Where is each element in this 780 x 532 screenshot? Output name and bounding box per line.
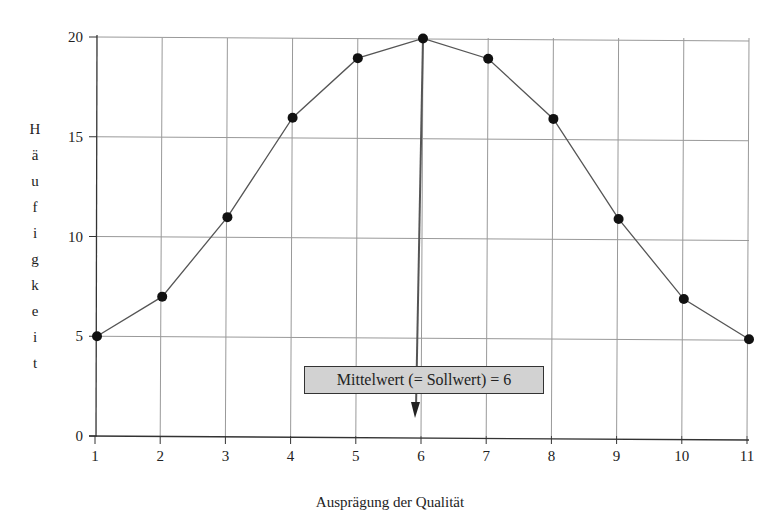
v-gridline <box>747 38 749 436</box>
data-point <box>744 334 754 344</box>
v-gridline <box>617 38 619 436</box>
data-point <box>483 54 493 64</box>
x-tick-label: 9 <box>613 448 621 464</box>
y-label-letter: ä <box>28 142 42 168</box>
x-axis-label: Ausprägung der Qualität <box>0 494 780 511</box>
y-axis <box>96 35 97 436</box>
x-axis <box>89 436 749 440</box>
x-tick-label: 6 <box>417 448 425 464</box>
data-point <box>353 53 363 63</box>
h-gridline <box>97 336 749 340</box>
x-tick-label: 1 <box>91 448 99 464</box>
x-tick-label: 8 <box>548 448 556 464</box>
tick-labels: 051015201234567891011 <box>68 29 754 464</box>
data-point <box>222 212 232 222</box>
x-tick-label: 10 <box>674 448 689 464</box>
x-tick-label: 2 <box>156 448 164 464</box>
v-gridline <box>682 38 684 436</box>
y-label-letter: t <box>28 350 42 376</box>
y-label-letter: u <box>28 168 42 194</box>
x-tick-label: 5 <box>352 448 360 464</box>
y-label-letter: k <box>28 272 42 298</box>
y-label-letter: f <box>28 194 42 220</box>
mean-annotation-box: Mittelwert (= Sollwert) = 6 <box>304 366 544 394</box>
y-tick-label: 0 <box>76 428 84 444</box>
v-gridline <box>551 38 553 436</box>
y-tick-label: 15 <box>68 129 83 145</box>
data-point <box>288 113 298 123</box>
line-chart: 051015201234567891011 <box>0 0 780 532</box>
y-tick-label: 5 <box>76 328 84 344</box>
y-label-letter: i <box>28 220 42 246</box>
y-tick-label: 20 <box>68 29 83 45</box>
data-point <box>92 331 102 341</box>
y-label-letter: i <box>28 324 42 350</box>
y-label-letter: g <box>28 246 42 272</box>
y-label-letter: e <box>28 298 42 324</box>
data-point <box>548 114 558 124</box>
x-tick-label: 7 <box>482 448 490 464</box>
data-point <box>157 292 167 302</box>
x-tick-label: 11 <box>740 448 754 464</box>
data-point <box>679 294 689 304</box>
x-tick-label: 4 <box>287 448 295 464</box>
data-point <box>418 34 428 44</box>
x-tick-label: 3 <box>222 448 230 464</box>
h-gridline <box>97 237 749 241</box>
y-label-letter: H <box>28 116 42 142</box>
arrow-head <box>411 402 420 418</box>
v-gridline <box>291 38 293 436</box>
y-axis-label: Häufigkeit <box>28 116 42 376</box>
y-tick-label: 10 <box>68 229 83 245</box>
data-point <box>614 214 624 224</box>
